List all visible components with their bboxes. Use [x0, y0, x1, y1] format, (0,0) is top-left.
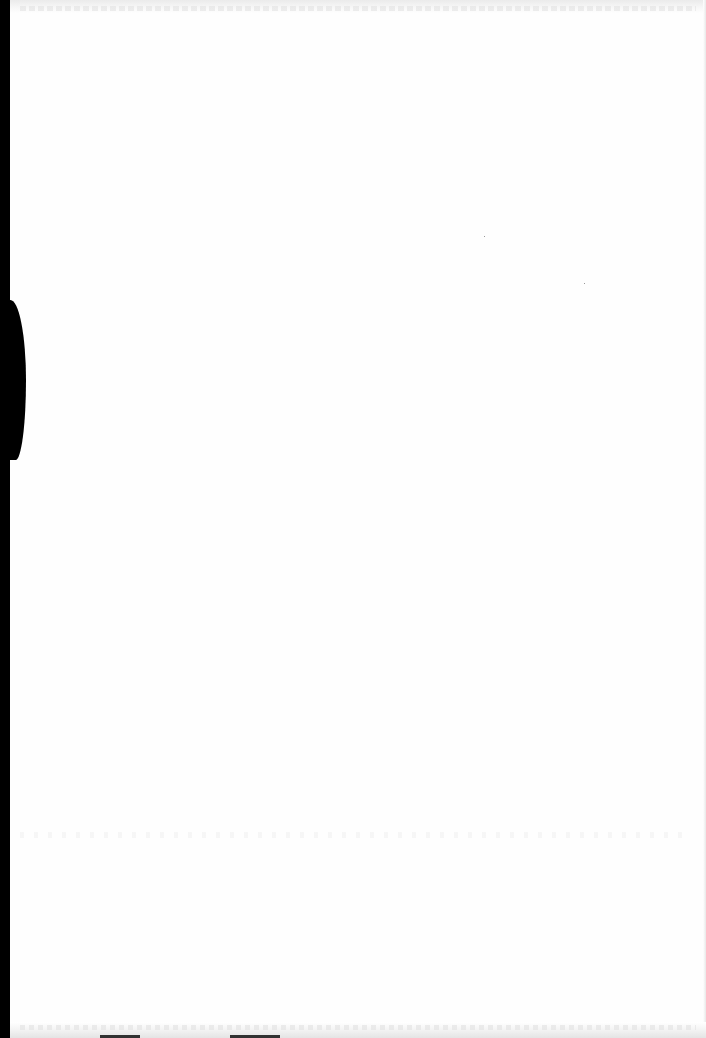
bottom-bleed-through-text: [20, 1025, 696, 1030]
left-scanner-shadow: [0, 0, 10, 1038]
speck: [484, 236, 485, 237]
speck: [584, 283, 585, 284]
scanned-page: [0, 0, 706, 1038]
faint-bleed-row: [20, 832, 686, 838]
top-bleed-through-text: [20, 6, 696, 11]
